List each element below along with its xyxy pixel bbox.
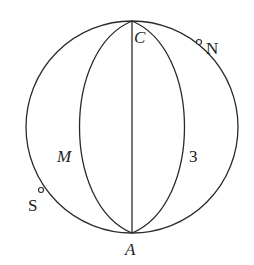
label-A: A (124, 240, 136, 259)
label-S: S (28, 196, 37, 215)
label-N: N (206, 39, 218, 58)
label-C: C (134, 28, 146, 47)
left-arc-M (80, 21, 133, 233)
north-pole-marker (197, 40, 202, 45)
south-pole-marker (39, 188, 44, 193)
right-arc-3 (132, 21, 185, 233)
label-M: M (56, 147, 72, 166)
label-3: 3 (189, 147, 198, 166)
sphere-diagram: C A M 3 N S (0, 0, 254, 265)
